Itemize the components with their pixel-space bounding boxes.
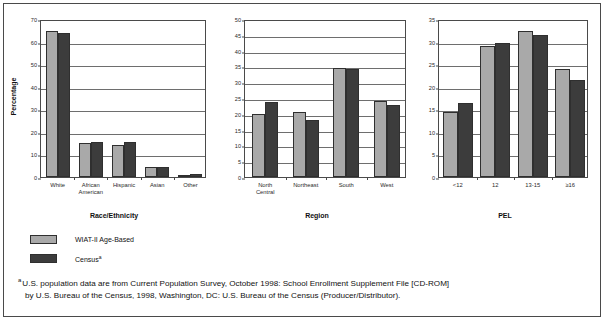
y-tick-mark: [436, 179, 439, 180]
bar: [252, 114, 265, 177]
bar: [124, 142, 136, 177]
bar: [570, 80, 585, 178]
bar: [495, 43, 510, 177]
bar-group: [141, 21, 174, 177]
bar-group: [552, 21, 590, 177]
y-tick-label: 5: [238, 160, 241, 166]
y-tick-label: 0: [238, 176, 241, 182]
y-tick-label: 20: [429, 86, 435, 92]
bar-group: [286, 21, 327, 177]
y-tick-label: 40: [235, 50, 241, 56]
chart-legend: WIAT-II Age-Based Censusa: [30, 232, 134, 270]
x-tick-mark: [141, 177, 142, 180]
legend-label-census: Censusa: [75, 254, 102, 263]
bar-group: [514, 21, 552, 177]
plot-area-1: 05101520253035404550North CentralNorthea…: [244, 20, 406, 178]
x-tick-mark: [174, 177, 175, 180]
x-tick-label: North Central: [242, 182, 288, 196]
figure-footnote: aU.S. population data are from Current P…: [18, 276, 593, 303]
legend-footnote-marker: a: [99, 254, 102, 260]
y-axis-title-0: Percentage: [10, 62, 17, 132]
y-tick-label: 50: [31, 63, 37, 69]
chart-panel-race-ethnicity: Percentage 010203040506070WhiteAfrican A…: [16, 14, 212, 224]
bar: [533, 35, 548, 177]
bar-group: [107, 21, 140, 177]
x-tick-label: Northeast: [283, 182, 329, 189]
bar-group: [74, 21, 107, 177]
legend-swatch-wiat: [30, 235, 57, 244]
bar-group: [477, 21, 515, 177]
y-tick-label: 15: [235, 129, 241, 135]
bar: [346, 69, 359, 177]
y-tick-label: 0: [34, 176, 37, 182]
y-tick-label: 60: [31, 41, 37, 47]
x-tick-mark: [367, 177, 368, 180]
x-axis-title-1: Region: [222, 212, 412, 219]
y-tick-label: 20: [31, 131, 37, 137]
x-tick-mark: [477, 177, 478, 180]
y-tick-label: 10: [235, 145, 241, 151]
y-tick-label: 30: [235, 81, 241, 87]
bar-group: [367, 21, 408, 177]
footnote-line-1: U.S. population data are from Current Po…: [22, 279, 449, 288]
legend-item: Censusa: [30, 251, 134, 266]
bar-group: [245, 21, 286, 177]
bar: [555, 69, 570, 177]
footnote-line-2: by U.S. Bureau of the Census, 1998, Wash…: [25, 290, 593, 303]
bar: [293, 112, 306, 177]
legend-label-census-text: Census: [75, 256, 99, 263]
bar: [190, 174, 202, 177]
bar: [374, 101, 387, 177]
y-tick-mark: [242, 179, 245, 180]
legend-swatch-census: [30, 254, 57, 263]
plot-area-2: 05101520253035<121213-15≥16: [438, 20, 588, 178]
y-tick-label: 25: [429, 63, 435, 69]
bar: [306, 120, 319, 177]
legend-item: WIAT-II Age-Based: [30, 232, 134, 247]
y-tick-label: 25: [235, 97, 241, 103]
y-tick-label: 15: [429, 108, 435, 114]
bar: [480, 46, 495, 177]
y-tick-label: 70: [31, 18, 37, 24]
x-tick-label: Other: [167, 182, 213, 189]
y-tick-label: 35: [429, 18, 435, 24]
bar: [265, 102, 278, 177]
chart-panel-region: 05101520253035404550North CentralNorthea…: [222, 14, 412, 224]
x-tick-mark: [74, 177, 75, 180]
y-tick-mark: [38, 179, 41, 180]
legend-label-wiat: WIAT-II Age-Based: [75, 236, 134, 243]
y-tick-label: 30: [429, 41, 435, 47]
x-tick-mark: [552, 177, 553, 180]
y-tick-label: 35: [235, 66, 241, 72]
bar: [157, 167, 169, 177]
bar: [518, 31, 533, 177]
bar: [333, 68, 346, 177]
y-tick-label: 45: [235, 34, 241, 40]
bar: [458, 103, 473, 177]
x-tick-mark: [286, 177, 287, 180]
bar-group: [174, 21, 207, 177]
x-axis-title-2: PEL: [416, 212, 594, 219]
bar: [443, 112, 458, 177]
y-tick-label: 50: [235, 18, 241, 24]
x-axis-title-0: Race/Ethnicity: [16, 212, 212, 219]
y-tick-label: 5: [432, 154, 435, 160]
bar-group: [41, 21, 74, 177]
y-tick-label: 10: [31, 154, 37, 160]
bar: [145, 167, 157, 177]
bar: [112, 145, 124, 177]
bar: [178, 175, 190, 177]
x-tick-mark: [514, 177, 515, 180]
footnote-marker: a: [18, 277, 21, 283]
y-tick-label: 30: [31, 108, 37, 114]
y-tick-label: 0: [432, 176, 435, 182]
bar: [46, 31, 58, 177]
bar-group: [439, 21, 477, 177]
x-tick-label: ≥16: [547, 182, 593, 189]
bar: [58, 33, 70, 177]
bar: [387, 105, 400, 177]
x-tick-mark: [107, 177, 108, 180]
y-tick-label: 40: [31, 86, 37, 92]
y-tick-label: 20: [235, 113, 241, 119]
bar: [79, 143, 91, 177]
